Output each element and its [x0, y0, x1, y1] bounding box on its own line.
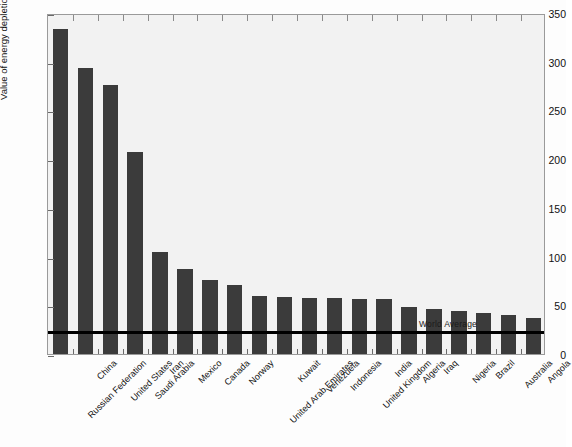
bar [127, 152, 142, 354]
bar [277, 297, 292, 354]
bar [177, 269, 192, 354]
x-axis-tick [471, 15, 472, 21]
x-axis-tick [272, 349, 273, 354]
y-axis-tick [48, 307, 54, 308]
bar [202, 280, 217, 354]
x-axis-tick [173, 15, 174, 21]
x-axis-tick [73, 15, 74, 21]
x-axis-tick-label: Norway [247, 358, 276, 387]
y-axis-tick [48, 15, 54, 16]
y-axis-tick [48, 210, 54, 211]
x-axis-tick [73, 349, 74, 354]
y-axis-title: Value of energy depletion (billion USD) [0, 0, 9, 100]
x-axis-tick [123, 349, 124, 354]
x-axis-tick [322, 349, 323, 354]
x-axis-tick [372, 15, 373, 21]
x-axis-tick [247, 15, 248, 21]
x-axis-tick [123, 15, 124, 21]
bar [352, 299, 367, 354]
x-axis-tick-label: Canada [222, 358, 251, 387]
x-axis-tick [297, 349, 298, 354]
world-average-label: World Average [419, 319, 477, 329]
bar [501, 315, 516, 354]
x-axis-tick [98, 349, 99, 354]
x-axis-tick [347, 15, 348, 21]
x-axis-tick-label: Iraq [441, 358, 459, 376]
x-axis-tick [397, 349, 398, 354]
bar [78, 68, 93, 354]
y-axis-tick [48, 64, 54, 65]
x-axis-tick [521, 15, 522, 21]
x-axis-tick [272, 15, 273, 21]
x-axis-tick [372, 349, 373, 354]
x-axis-tick [446, 15, 447, 21]
bar [376, 299, 391, 354]
world-average-line [48, 331, 544, 334]
x-axis-tick [98, 15, 99, 21]
x-axis-tick-label: China [95, 358, 119, 382]
y-axis-tick [48, 259, 54, 260]
bar [327, 298, 342, 354]
x-axis-tick [197, 349, 198, 354]
x-axis-tick [521, 349, 522, 354]
y-axis-tick [48, 161, 54, 162]
x-axis-tick [496, 15, 497, 21]
x-axis-tick [148, 349, 149, 354]
x-axis-tick [173, 349, 174, 354]
x-axis-tick [496, 349, 497, 354]
x-axis-tick-label: Nigeria [470, 358, 497, 385]
bar [152, 252, 167, 354]
x-axis-tick [471, 349, 472, 354]
plot-area: World Average [47, 14, 545, 355]
x-axis-tick [422, 15, 423, 21]
bar [526, 318, 541, 354]
x-axis-tick [222, 349, 223, 354]
x-axis-tick-label: Brazil [493, 358, 516, 381]
bar [103, 85, 118, 354]
x-axis-tick [197, 15, 198, 21]
bar [302, 298, 317, 355]
bar [53, 29, 68, 354]
x-axis-tick [347, 349, 348, 354]
x-axis-tick [322, 15, 323, 21]
bar [227, 285, 242, 354]
bar [252, 296, 267, 354]
x-axis-tick [422, 349, 423, 354]
x-axis-tick [247, 349, 248, 354]
x-axis-tick [222, 15, 223, 21]
x-axis-tick [397, 15, 398, 21]
plot-inner: World Average [48, 15, 544, 354]
x-axis-tick [446, 349, 447, 354]
x-axis-tick [297, 15, 298, 21]
y-axis-tick [48, 112, 54, 113]
x-axis-tick-label: Kuwait [295, 358, 321, 384]
x-axis-tick-label: Mexico [196, 358, 223, 385]
x-axis-tick [148, 15, 149, 21]
y-axis-tick [48, 356, 54, 357]
